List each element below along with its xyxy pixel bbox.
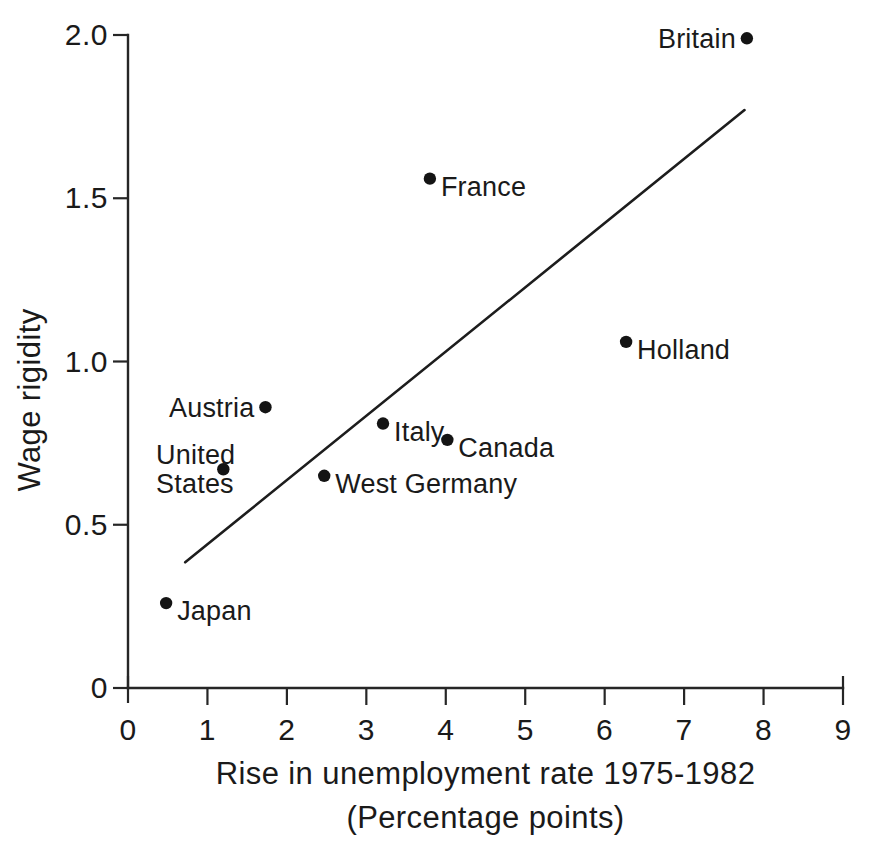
point-label: United States bbox=[156, 441, 235, 499]
x-axis-title: Rise in unemployment rate 1975-1982 bbox=[128, 752, 843, 796]
x-tick-label: 3 bbox=[358, 715, 375, 745]
data-point bbox=[259, 401, 271, 413]
x-tick-label: 1 bbox=[199, 715, 216, 745]
point-label: Holland bbox=[637, 336, 730, 365]
x-tick-label: 6 bbox=[596, 715, 613, 745]
data-point bbox=[377, 417, 389, 429]
x-tick-label: 4 bbox=[437, 715, 454, 745]
y-tick-label: 0 bbox=[0, 673, 108, 703]
point-label: Italy bbox=[394, 418, 445, 447]
x-tick-label: 8 bbox=[755, 715, 772, 745]
x-tick-label: 7 bbox=[676, 715, 693, 745]
point-label: Canada bbox=[458, 434, 554, 463]
y-tick-label: 2.0 bbox=[0, 20, 108, 50]
data-point bbox=[424, 172, 436, 184]
x-tick-label: 2 bbox=[278, 715, 295, 745]
point-label: West Germany bbox=[335, 470, 517, 499]
data-point bbox=[741, 32, 753, 44]
x-tick-label: 0 bbox=[119, 715, 136, 745]
x-axis-subtitle: (Percentage points) bbox=[128, 796, 843, 840]
point-label: Britain bbox=[658, 26, 736, 55]
data-point bbox=[318, 470, 330, 482]
point-label: France bbox=[441, 173, 526, 202]
data-points bbox=[160, 32, 753, 609]
x-tick-label: 5 bbox=[517, 715, 534, 745]
x-tick-label: 9 bbox=[834, 715, 851, 745]
chart-root: 00.51.01.52.0 0123456789 JapanUnited Sta… bbox=[0, 0, 872, 856]
scatter-plot: 00.51.01.52.0 0123456789 JapanUnited Sta… bbox=[0, 0, 872, 856]
point-label: Japan bbox=[177, 598, 252, 627]
point-label: Austria bbox=[169, 395, 254, 424]
y-tick-label: 0.5 bbox=[0, 510, 108, 540]
data-point bbox=[620, 336, 632, 348]
y-axis-title: Wage rigidity bbox=[12, 308, 48, 491]
x-axis-title-block: Rise in unemployment rate 1975-1982 (Per… bbox=[128, 752, 843, 840]
y-tick-label: 1.5 bbox=[0, 183, 108, 213]
data-point bbox=[160, 597, 172, 609]
